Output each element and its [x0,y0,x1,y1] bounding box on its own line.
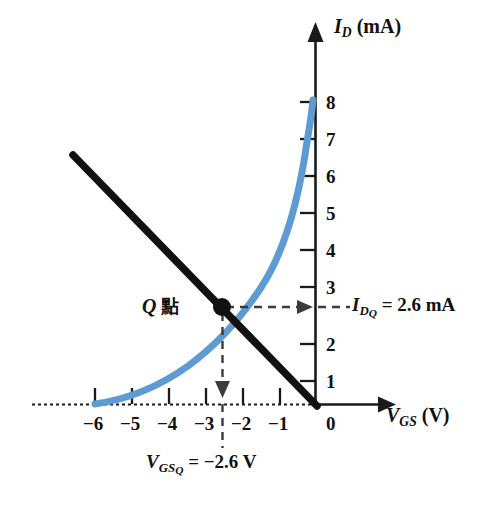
vgsq-symbol: V [146,451,159,472]
x-tick-label--4: −4 [157,414,177,433]
idq-annotation: IDQ = 2.6 mA [352,295,455,319]
y-tick-label-7: 7 [326,130,336,149]
y-axis-title-symbol: I [334,15,342,37]
vgsq-arrowhead [215,381,230,398]
q-point-marker [213,298,231,316]
plot-canvas [0,0,494,516]
idq-subscript-d: D [359,303,368,318]
y-axis-arrowhead [308,22,324,42]
transfer-curve [95,100,313,404]
y-tick-label-6: 6 [326,167,336,186]
x-tick-label--5: −5 [120,414,140,433]
x-axis-group [32,397,396,413]
x-tick-label--2: −2 [231,414,251,433]
x-tick-label-0: 0 [326,414,336,433]
idq-arrowhead [297,300,313,314]
idq-value: = 2.6 mA [377,294,455,315]
vgsq-value: = −2.6 V [183,451,256,472]
load-line [73,155,317,406]
q-point-letter: Q [142,295,156,317]
x-axis-title-symbol: V [386,404,399,426]
y-tick-label-4: 4 [326,241,336,260]
y-tick-label-8: 8 [326,93,336,112]
y-axis-title-subscript: D [342,25,352,40]
q-point-word: 點 [161,296,179,317]
idq-subscript-q: Q [369,307,377,319]
vgsq-subscript-gs: GS [159,460,176,475]
y-tick-label-5: 5 [326,204,336,223]
y-axis-title-unit: (mA) [352,15,401,37]
y-tick-label-3: 3 [326,278,336,297]
q-point-label: Q 點 [142,296,179,316]
x-axis-title: VGS (V) [386,405,450,429]
jfet-transfer-characteristic-figure: −6 −5 −4 −3 −2 −1 0 8 7 6 5 4 3 2 1 ID (… [0,0,494,516]
x-tick-label--3: −3 [194,414,214,433]
x-tick-label--6: −6 [83,414,103,433]
x-axis-title-unit: (V) [417,404,450,426]
x-axis-title-subscript: GS [399,414,416,429]
x-tick-label--1: −1 [268,414,288,433]
y-axis-title: ID (mA) [334,16,401,40]
vgsq-annotation: VGSQ = −2.6 V [146,452,256,476]
y-tick-label-2: 2 [326,335,336,354]
y-tick-label-1: 1 [326,372,336,391]
